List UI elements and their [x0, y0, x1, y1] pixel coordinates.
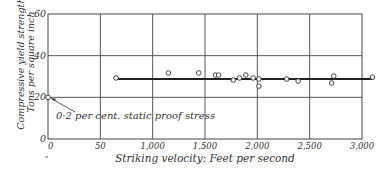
data-point: [196, 71, 201, 76]
x-tick-label: 2,000: [244, 141, 270, 151]
data-point: [331, 74, 336, 79]
data-point: [216, 73, 221, 78]
x-tick-label: 0: [48, 141, 54, 151]
data-point: [244, 73, 249, 78]
data-point: [296, 79, 301, 84]
data-point: [237, 76, 242, 81]
data-point: [284, 77, 289, 82]
y-axis-label: Compressive yield strength: Tons per squ…: [14, 10, 36, 114]
data-point: [370, 75, 375, 80]
footnote-mark: *: [45, 154, 48, 161]
x-tick-label: 2,500: [296, 141, 322, 151]
x-axis-label: Striking velocity: Feet per second: [48, 152, 362, 164]
x-tick-label: 1,500: [193, 141, 218, 151]
plot-area: 0204060 0501,0001,5002,0002,5003,000: [0, 0, 389, 169]
data-point: [329, 81, 334, 86]
annotation-label: 0·2 per cent. static proof stress: [56, 110, 215, 121]
data-point: [114, 76, 119, 81]
data-point: [251, 76, 256, 81]
y-tick-label: 0: [40, 133, 46, 144]
x-tick-label: 50: [95, 141, 106, 151]
data-point: [46, 95, 51, 100]
data-points: [46, 71, 375, 100]
data-point: [257, 77, 262, 82]
data-point: [231, 78, 236, 83]
x-tick-labels: 0501,0001,5002,0002,5003,000: [48, 141, 375, 151]
data-point: [166, 71, 171, 76]
x-tick-label: 3,000: [350, 141, 375, 151]
y-axis-label-line-2: Tons per square inch: [25, 0, 35, 130]
chart: 0204060 0501,0001,5002,0002,5003,000 Com…: [0, 0, 389, 169]
data-point: [257, 84, 262, 89]
x-tick-label: 1,000: [140, 141, 165, 151]
